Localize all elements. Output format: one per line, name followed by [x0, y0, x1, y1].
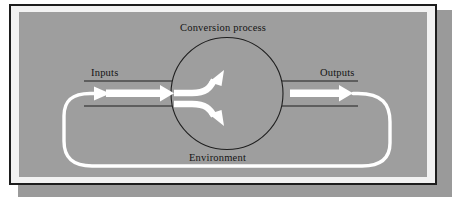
environment-label: Environment — [189, 153, 246, 164]
outputs-label: Outputs — [320, 68, 355, 79]
conversion-process-label: Conversion process — [180, 23, 266, 34]
diagram-figure: Conversion process Inputs Outputs Enviro… — [0, 0, 454, 201]
inputs-label: Inputs — [91, 68, 118, 79]
